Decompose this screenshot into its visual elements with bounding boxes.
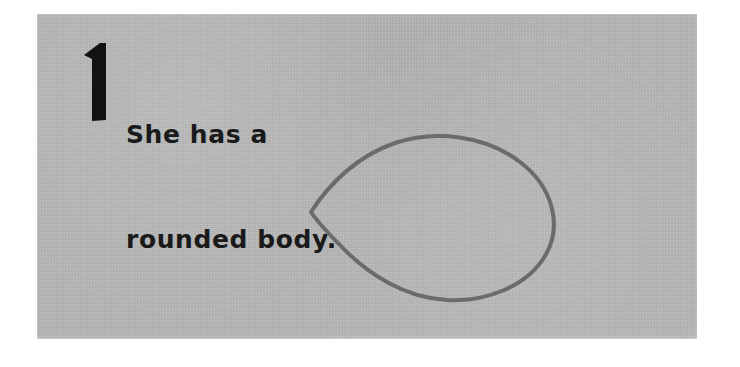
rounded-body-outline-icon <box>295 122 580 312</box>
numeral-one-icon <box>80 41 120 123</box>
step-number: 1 <box>80 41 120 123</box>
scanned-page: 1 She has a rounded body. <box>0 0 740 367</box>
drawing-figure <box>295 122 580 312</box>
